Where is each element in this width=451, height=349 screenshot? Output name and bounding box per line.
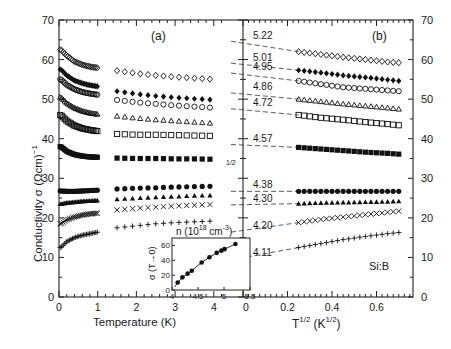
series-b-4.11: 4.11 — [231, 230, 401, 260]
series-n=4.57 — [58, 144, 213, 162]
series-n=5.01 — [58, 66, 213, 102]
svg-text:0.2: 0.2 — [280, 301, 295, 313]
curve-label: 5.22 — [253, 30, 273, 41]
series-b-4.57: 4.57 — [231, 133, 401, 157]
svg-text:70: 70 — [421, 14, 433, 26]
svg-text:40: 40 — [161, 256, 170, 265]
curve-label: 4.20 — [253, 220, 273, 231]
svg-text:4.5: 4.5 — [192, 292, 204, 301]
svg-text:1: 1 — [95, 301, 101, 313]
curve-label: 4.30 — [253, 193, 273, 204]
x-axis-title-b: T1/2(K1/2) — [292, 315, 341, 331]
svg-text:20: 20 — [421, 212, 433, 224]
svg-text:50: 50 — [421, 93, 433, 105]
svg-text:10: 10 — [421, 251, 433, 263]
y-axis-title-text: Conductivity σ (Ωcm) — [32, 154, 44, 262]
curve-label: 4.86 — [253, 81, 273, 92]
svg-text:Conductivity σ (Ωcm)−1: Conductivity σ (Ωcm)−1 — [30, 145, 44, 262]
svg-text:40: 40 — [421, 133, 433, 145]
panel-a-label: (a) — [151, 29, 166, 43]
svg-text:5.5: 5.5 — [244, 292, 256, 301]
svg-text:0.6: 0.6 — [369, 301, 384, 313]
inset-plot: 020406044.555.5n (1018 cm-3)σ (T→0) — [147, 224, 256, 301]
svg-text:3: 3 — [172, 301, 178, 313]
svg-text:60: 60 — [161, 241, 170, 250]
y-axis-title: Conductivity σ (Ωcm)−1 — [30, 145, 44, 262]
svg-text:0: 0 — [56, 301, 62, 313]
svg-text:2: 2 — [133, 301, 139, 313]
series-n=5.22 — [58, 47, 213, 83]
svg-text:20: 20 — [161, 271, 170, 280]
conductivity-figure: 01020304050607001234 01020304050607000.2… — [0, 0, 451, 349]
material-label: Si:B — [369, 260, 389, 272]
svg-text:0: 0 — [243, 301, 249, 313]
panel-a-data — [58, 47, 213, 251]
panel-b-label: (b) — [372, 29, 387, 43]
series-b-4.38: 4.38 — [231, 179, 401, 194]
svg-text:60: 60 — [42, 54, 54, 66]
series-n=4.72 — [58, 112, 213, 138]
svg-text:40: 40 — [42, 133, 54, 145]
curve-label: 4.95 — [253, 61, 273, 72]
curve-label: 4.72 — [253, 97, 273, 108]
svg-text:70: 70 — [42, 14, 54, 26]
series-b-4.20: 4.20 — [231, 209, 401, 233]
series-b-4.72: 4.72 — [231, 97, 401, 128]
curve-label: 4.11 — [253, 247, 272, 258]
curve-label: 4.57 — [253, 133, 273, 144]
svg-text:0.4: 0.4 — [325, 301, 340, 313]
svg-text:4: 4 — [170, 292, 175, 301]
half-mark: 1/2 — [226, 159, 236, 166]
curve-label: 4.38 — [253, 179, 273, 190]
svg-text:60: 60 — [421, 54, 433, 66]
svg-text:30: 30 — [421, 172, 433, 184]
series-n=4.86 — [58, 95, 213, 126]
series-n=4.20 — [58, 202, 213, 226]
svg-text:σ (T→0): σ (T→0) — [147, 246, 157, 280]
series-n=4.38 — [58, 184, 213, 194]
svg-text:50: 50 — [42, 93, 54, 105]
svg-text:4: 4 — [211, 301, 217, 313]
x-axis-title-a: Temperature (K) — [93, 316, 176, 328]
series-n=4.30 — [58, 193, 213, 206]
svg-text:0: 0 — [421, 291, 427, 303]
y-axis-title-sup: −1 — [30, 145, 39, 155]
svg-text:0: 0 — [48, 291, 54, 303]
panel-b-data: 5.225.014.954.864.724.574.384.304.204.11 — [231, 30, 401, 260]
series-b-4.30: 4.30 — [231, 193, 401, 206]
svg-text:n (1018 cm-3): n (1018 cm-3) — [176, 224, 232, 237]
svg-text:5: 5 — [222, 292, 227, 301]
